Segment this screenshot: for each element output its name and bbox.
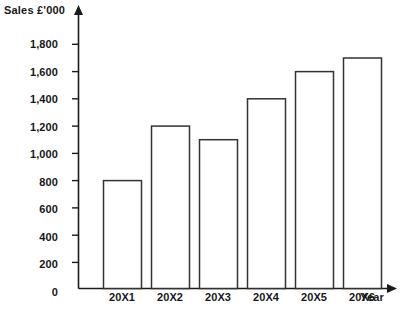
x-axis-arrow-icon — [387, 284, 397, 293]
bar-20X4 — [248, 99, 286, 289]
y-axis-arrow-icon — [74, 5, 83, 15]
bar-series — [104, 58, 382, 289]
bar-20X5 — [296, 72, 334, 289]
y-axis — [74, 5, 83, 289]
chart-plot-area — [0, 0, 408, 314]
bar-20X3 — [200, 140, 238, 289]
bar-20X1 — [104, 181, 142, 289]
bar-20X6 — [344, 58, 382, 289]
y-axis-ticks — [72, 44, 79, 262]
bar-20X2 — [152, 126, 190, 288]
bar-chart-figure: Sales £'000 Year 1,800 1,600 1,400 1,200… — [0, 0, 408, 314]
